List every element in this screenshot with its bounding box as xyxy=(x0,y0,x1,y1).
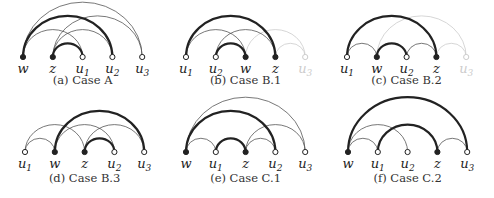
panel-caption: (e) Case C.1 xyxy=(210,171,281,185)
edge-thin xyxy=(186,97,305,152)
edge-thin xyxy=(407,43,437,57)
edge-thick xyxy=(377,43,407,57)
panel-caption: (d) Case B.3 xyxy=(49,171,120,185)
hollow-node-u3 xyxy=(464,54,469,59)
node-label: z xyxy=(433,156,441,171)
hollow-node-u3 xyxy=(303,54,308,59)
panel-c1: wu1zu2u3(e) Case C.1 xyxy=(180,97,312,185)
panel-caption: (f) Case C.2 xyxy=(373,171,441,185)
filled-node-z xyxy=(435,149,440,154)
edge-thin xyxy=(347,43,377,57)
edge-thick xyxy=(347,16,436,57)
panel-a: wzu1u2u3(a) Case A xyxy=(17,2,149,87)
node-label: w xyxy=(49,156,60,171)
hollow-node-u1 xyxy=(80,54,85,59)
panel-caption: (b) Case B.1 xyxy=(210,73,281,87)
hollow-node-u2 xyxy=(110,54,115,59)
panel-caption: (a) Case A xyxy=(53,73,114,87)
panel-b2: u1wu2zu3(c) Case B.2 xyxy=(340,16,474,87)
edge-thin xyxy=(186,138,216,152)
edge-faded xyxy=(377,16,466,57)
edge-thin xyxy=(25,138,55,152)
node-label: u1 xyxy=(340,61,354,78)
node-label: z xyxy=(241,156,249,171)
filled-node-w xyxy=(243,54,248,59)
hollow-node-u3 xyxy=(303,149,308,154)
edge-thick xyxy=(53,43,83,57)
hollow-node-u1 xyxy=(183,54,188,59)
filled-node-z xyxy=(434,54,439,59)
filled-node-w xyxy=(345,149,350,154)
hollow-node-u1 xyxy=(344,54,349,59)
hollow-node-u2 xyxy=(213,54,218,59)
node-label: u3 xyxy=(298,156,312,173)
node-label: u3 xyxy=(459,61,473,78)
hollow-node-u3 xyxy=(140,54,145,59)
edge-thick xyxy=(216,43,246,57)
hollow-node-u1 xyxy=(375,149,380,154)
node-label: z xyxy=(80,156,88,171)
filled-node-z xyxy=(50,54,55,59)
node-label: u3 xyxy=(137,156,151,173)
hollow-node-u3 xyxy=(465,149,470,154)
edge-thick xyxy=(85,138,115,152)
hollow-node-u1 xyxy=(213,149,218,154)
node-label: w xyxy=(17,61,28,76)
edge-thick xyxy=(55,111,144,152)
case-diagrams-figure: wzu1u2u3(a) Case Au1u2wzu3(b) Case B.1u1… xyxy=(0,0,494,198)
filled-node-z xyxy=(82,149,87,154)
edge-faded xyxy=(275,43,305,57)
node-label: u1 xyxy=(18,156,32,173)
node-label: u3 xyxy=(460,156,474,173)
filled-node-w xyxy=(20,54,25,59)
panel-b1: u1u2wzu3(b) Case B.1 xyxy=(179,16,313,87)
filled-node-z xyxy=(243,149,248,154)
filled-node-w xyxy=(374,54,379,59)
edge-faded xyxy=(436,43,466,57)
hollow-node-u1 xyxy=(22,149,27,154)
panel-caption: (c) Case B.2 xyxy=(371,73,442,87)
filled-node-w xyxy=(183,149,188,154)
hollow-node-u2 xyxy=(112,149,117,154)
hollow-node-u3 xyxy=(142,149,147,154)
hollow-node-u2 xyxy=(273,149,278,154)
hollow-node-u2 xyxy=(405,149,410,154)
node-label: u3 xyxy=(135,61,149,78)
hollow-node-u2 xyxy=(404,54,409,59)
edge-thin xyxy=(246,138,276,152)
filled-node-w xyxy=(52,149,57,154)
edge-thin xyxy=(437,138,467,152)
filled-node-z xyxy=(273,54,278,59)
node-label: w xyxy=(342,156,353,171)
edge-thin xyxy=(348,138,378,152)
node-label: w xyxy=(180,156,191,171)
edge-thick xyxy=(216,138,246,152)
node-label: u3 xyxy=(298,61,312,78)
panel-c2: wu1u2zu3(f) Case C.2 xyxy=(342,97,474,185)
panel-b3: u1wzu2u3(d) Case B.3 xyxy=(18,111,152,185)
node-label: u1 xyxy=(179,61,193,78)
edge-thick xyxy=(186,16,275,57)
